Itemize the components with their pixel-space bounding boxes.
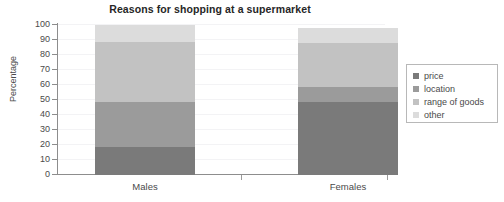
bar-females xyxy=(298,24,398,175)
y-tick-label: 50 xyxy=(16,95,50,104)
legend-label: price xyxy=(424,71,444,81)
legend-label: other xyxy=(424,110,445,120)
bar-segment-range-of-goods xyxy=(298,43,398,87)
y-tick-label: 20 xyxy=(16,140,50,149)
legend-item-price[interactable]: price xyxy=(413,70,497,82)
legend-item-range-of-goods[interactable]: range of goods xyxy=(413,96,497,108)
y-tick-label: 100 xyxy=(16,20,50,29)
y-tick-label: 40 xyxy=(16,110,50,119)
bar-segment-location xyxy=(298,87,398,102)
chart-title: Reasons for shopping at a supermarket xyxy=(60,3,360,15)
y-tick-label: 80 xyxy=(16,50,50,59)
y-tick-label: 30 xyxy=(16,125,50,134)
x-tick-label-males: Males xyxy=(105,181,185,192)
legend-swatch-icon xyxy=(413,86,419,92)
legend-item-location[interactable]: location xyxy=(413,83,497,95)
bar-males xyxy=(95,24,195,175)
bar-segment-other xyxy=(298,28,398,43)
y-tick-label: 70 xyxy=(16,65,50,74)
y-tick-label: 60 xyxy=(16,80,50,89)
plot-area xyxy=(58,24,385,175)
legend-swatch-icon xyxy=(413,99,419,105)
legend-item-other[interactable]: other xyxy=(413,109,497,121)
y-tick-label: 90 xyxy=(16,35,50,44)
bar-segment-other xyxy=(95,25,195,42)
y-tick-label: 10 xyxy=(16,155,50,164)
bar-segment-range-of-goods xyxy=(95,42,195,102)
bar-segment-location xyxy=(95,102,195,147)
legend-swatch-icon xyxy=(413,112,419,118)
legend-swatch-icon xyxy=(413,73,419,79)
y-tick-label: 0 xyxy=(16,170,50,179)
legend-label: location xyxy=(424,84,455,94)
x-tick-mark xyxy=(387,175,388,180)
x-tick-mark xyxy=(241,175,242,180)
bar-segment-price xyxy=(298,102,398,176)
x-tick-label-females: Females xyxy=(308,181,388,192)
stacked-bar-chart: Reasons for shopping at a supermarket Pe… xyxy=(0,0,504,202)
bar-segment-price xyxy=(95,147,195,176)
legend-label: range of goods xyxy=(424,97,484,107)
chart-legend: pricelocationrange of goodsother xyxy=(406,64,498,123)
